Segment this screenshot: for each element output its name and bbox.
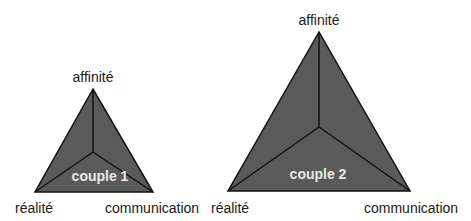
arc-triangles-diagram: couple 1 affinité réalité communication … (0, 0, 471, 221)
triangle-couple-2: couple 2 affinité réalité communication (211, 12, 458, 216)
vertex-label-affinite: affinité (73, 69, 114, 85)
couple-label: couple 1 (72, 168, 129, 184)
vertex-label-affinite: affinité (299, 12, 340, 28)
vertex-label-communication: communication (364, 200, 458, 216)
triangle-couple-1: couple 1 affinité réalité communication (15, 69, 199, 216)
vertex-label-communication: communication (105, 200, 199, 216)
vertex-label-realite: réalité (15, 200, 53, 216)
vertex-label-realite: réalité (211, 200, 249, 216)
couple-label: couple 2 (290, 166, 347, 182)
